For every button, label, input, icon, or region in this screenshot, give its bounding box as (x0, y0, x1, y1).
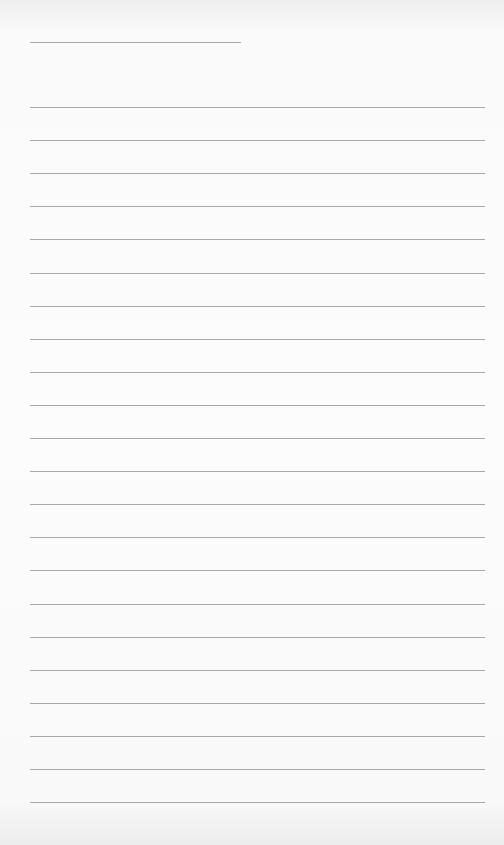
header-name-line (30, 42, 241, 43)
ruled-line (30, 206, 485, 207)
ruled-line (30, 504, 485, 505)
ruled-line (30, 405, 485, 406)
ruled-line (30, 802, 485, 803)
ruled-line (30, 769, 485, 770)
ruled-line (30, 471, 485, 472)
ruled-line (30, 703, 485, 704)
ruled-line (30, 537, 485, 538)
ruled-line (30, 306, 485, 307)
ruled-line (30, 670, 485, 671)
ruled-line (30, 736, 485, 737)
ruled-line (30, 273, 485, 274)
lined-paper-page (0, 0, 504, 845)
ruled-line (30, 140, 485, 141)
ruled-line (30, 239, 485, 240)
ruled-line (30, 637, 485, 638)
ruled-line (30, 570, 485, 571)
ruled-line (30, 107, 485, 108)
ruled-line (30, 339, 485, 340)
ruled-line (30, 173, 485, 174)
ruled-line (30, 604, 485, 605)
ruled-line (30, 438, 485, 439)
ruled-line (30, 372, 485, 373)
